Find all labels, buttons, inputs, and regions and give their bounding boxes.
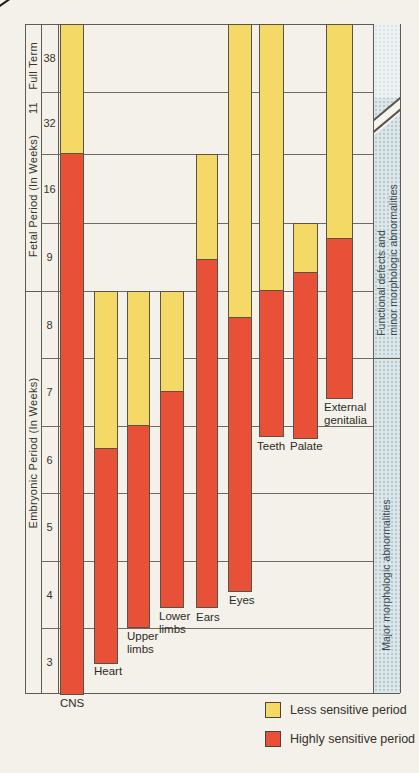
functional-defects-label: Functional defects and minor morphologic… [376, 184, 399, 336]
bar-label-palate: Palate [290, 440, 323, 453]
bar-label-heart: Heart [94, 665, 122, 678]
bar-label-lower-limbs: Lowerlimbs [159, 610, 190, 636]
bar-external-genitalia [326, 24, 353, 399]
week-tick-3: 3 [41, 656, 58, 668]
axis-label-fetal-period: Fetal Period (In Weeks) [27, 135, 39, 257]
less-sensitive-swatch-icon [265, 702, 281, 718]
bar-heart [94, 291, 118, 664]
week-tick-38: 38 [41, 52, 58, 64]
week-tick-5: 5 [41, 521, 58, 533]
week-tick-32: 32 [41, 117, 58, 129]
week-tick-8: 8 [41, 319, 58, 331]
axis-label-11: 11 [27, 102, 39, 114]
week-tick-4: 4 [41, 589, 58, 601]
bar-upper-limbs-highly-sensitive-segment [128, 425, 149, 627]
legend-item-highly-sensitive: Highly sensitive period [265, 731, 415, 747]
week-gridline-32 [41, 92, 373, 93]
legend-item-less-sensitive: Less sensitive period [265, 702, 407, 718]
bar-eyes [228, 24, 252, 592]
bar-cns-less-sensitive-segment [61, 25, 83, 155]
axis-label-full-term: Full Term [27, 42, 39, 90]
bar-palate-highly-sensitive-segment [294, 272, 317, 438]
bar-label-ears: Ears [196, 611, 220, 624]
bar-cns [60, 24, 84, 695]
highly-sensitive-swatch-icon [265, 731, 281, 747]
bar-lower-limbs [160, 291, 184, 608]
bar-teeth [259, 24, 284, 437]
bar-label-external-genitalia: Externalgenitalia [324, 401, 367, 427]
highly-sensitive-label: Highly sensitive period [290, 732, 415, 746]
bar-external-genitalia-highly-sensitive-segment [327, 238, 352, 398]
bar-label-cns: CNS [60, 697, 84, 710]
bar-lower-limbs-highly-sensitive-segment [161, 391, 183, 607]
less-sensitive-label: Less sensitive period [290, 703, 407, 717]
bar-ears [196, 154, 218, 608]
bar-lower-limbs-less-sensitive-segment [161, 292, 183, 393]
strip-light-top [374, 24, 400, 98]
bar-teeth-highly-sensitive-segment [260, 290, 283, 436]
abnormality-annotation-strip: Functional defects and minor morphologic… [373, 24, 401, 693]
bar-palate [293, 223, 318, 439]
scan-artifact-mark [0, 0, 10, 8]
bar-label-teeth: Teeth [257, 440, 285, 453]
bar-ears-less-sensitive-segment [197, 155, 217, 261]
bar-ears-highly-sensitive-segment [197, 259, 217, 607]
week-tick-6: 6 [41, 454, 58, 466]
axis-outer-border [25, 24, 26, 693]
week-gridline-3 [41, 628, 373, 629]
week-tick-9: 9 [41, 251, 58, 263]
week-tick-16: 16 [41, 183, 58, 195]
bar-heart-less-sensitive-segment [95, 292, 117, 450]
bar-label-eyes: Eyes [229, 594, 255, 607]
bar-palate-less-sensitive-segment [294, 224, 317, 274]
teratology-critical-periods-chart-page: Full Term 11 Fetal Period (In Weeks) Emb… [0, 0, 419, 773]
bar-external-genitalia-less-sensitive-segment [327, 25, 352, 240]
week-tick-7: 7 [41, 386, 58, 398]
fetal-embryonic-divider [25, 291, 41, 292]
bar-heart-highly-sensitive-segment [95, 448, 117, 663]
strip-section-divider [374, 358, 400, 359]
bar-upper-limbs-less-sensitive-segment [128, 292, 149, 427]
bar-cns-highly-sensitive-segment [61, 153, 83, 694]
axis-break-icon [373, 102, 401, 128]
bar-label-upper-limbs: Upperlimbs [127, 630, 158, 656]
major-abnormalities-label: Major morphologic abnormalities [381, 499, 393, 651]
bar-upper-limbs [127, 291, 150, 628]
bar-eyes-less-sensitive-segment [229, 25, 251, 319]
axis-label-embryonic-period: Embryonic Period (In Weeks) [27, 378, 39, 529]
bar-teeth-less-sensitive-segment [260, 25, 283, 292]
bar-eyes-highly-sensitive-segment [229, 317, 251, 591]
